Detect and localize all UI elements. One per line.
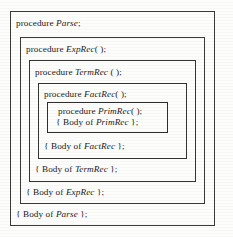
body-suffix-parse: };: [78, 209, 88, 219]
body-prefix-primrec: { Body of: [56, 117, 96, 127]
keyword-procedure-termrec: procedure: [35, 67, 75, 77]
keyword-procedure-parse: procedure: [16, 18, 56, 28]
body-suffix-exprec: };: [95, 187, 105, 197]
body-suffix-termrec: };: [108, 164, 118, 174]
terminator-primrec: ( );: [131, 106, 142, 116]
terminator-parse: ;: [78, 18, 81, 28]
body-parse: { Body of Parse };: [16, 209, 87, 220]
body-prefix-parse: { Body of: [16, 209, 56, 219]
declaration-factrec: procedure FactRec( );: [44, 89, 127, 100]
identifier-factrec: FactRec: [84, 89, 115, 99]
declaration-exprec: procedure ExpRec( );: [26, 44, 106, 55]
body-identifier-termrec: TermRec: [75, 164, 108, 174]
keyword-procedure-factrec: procedure: [44, 89, 84, 99]
declaration-primrec: procedure PrimRec( );: [58, 106, 142, 117]
identifier-primrec: PrimRec: [98, 106, 131, 116]
body-exprec: { Body of ExpRec };: [26, 187, 104, 198]
body-identifier-factrec: FactRec: [84, 141, 115, 151]
body-identifier-primrec: PrimRec: [96, 117, 129, 127]
terminator-exprec: ( );: [95, 44, 106, 54]
identifier-termrec: TermRec: [75, 67, 108, 77]
nested-procedure-diagram: procedure Parse; procedure ExpRec( ); pr…: [0, 0, 233, 237]
identifier-parse: Parse: [56, 18, 78, 28]
body-identifier-parse: Parse: [56, 209, 78, 219]
keyword-procedure-exprec: procedure: [26, 44, 66, 54]
body-suffix-factrec: };: [115, 141, 125, 151]
keyword-procedure-primrec: procedure: [58, 106, 98, 116]
identifier-exprec: ExpRec: [66, 44, 95, 54]
body-prefix-termrec: { Body of: [35, 164, 75, 174]
terminator-factrec: ( );: [115, 89, 126, 99]
declaration-termrec: procedure TermRec ( );: [35, 67, 122, 78]
body-prefix-factrec: { Body of: [44, 141, 84, 151]
body-factrec: { Body of FactRec };: [44, 141, 125, 152]
body-suffix-primrec: };: [129, 117, 139, 127]
body-termrec: { Body of TermRec };: [35, 164, 117, 175]
body-primrec: { Body of PrimRec };: [56, 117, 138, 128]
body-prefix-exprec: { Body of: [26, 187, 66, 197]
body-identifier-exprec: ExpRec: [66, 187, 95, 197]
declaration-parse: procedure Parse;: [16, 18, 81, 29]
terminator-termrec: ( );: [108, 67, 122, 77]
